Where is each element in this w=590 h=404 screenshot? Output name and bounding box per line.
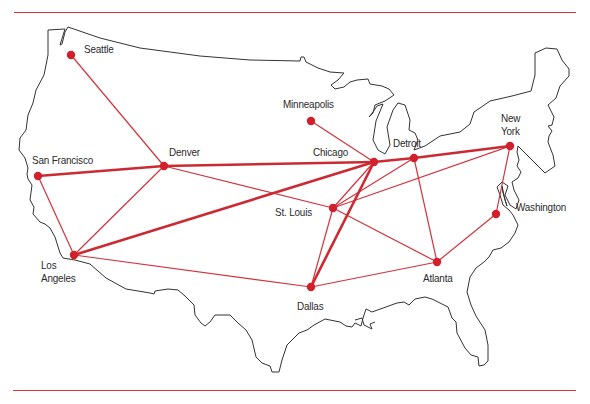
city-label-seattle: Seattle — [84, 43, 114, 56]
route-seattle-denver — [71, 55, 164, 166]
route-denver-chicago — [164, 162, 374, 166]
city-label-los-angeles: LosAngeles — [41, 259, 76, 285]
city-marker-seattle[interactable] — [67, 51, 75, 59]
route-los-angeles-dallas — [74, 255, 311, 287]
city-label-minneapolis: Minneapolis — [283, 98, 334, 111]
city-label-chicago: Chicago — [313, 146, 348, 159]
us-outline — [19, 27, 569, 372]
city-marker-dallas[interactable] — [307, 283, 315, 291]
city-marker-st-louis[interactable] — [329, 204, 337, 212]
city-label-denver: Denver — [169, 146, 200, 159]
route-lines — [38, 55, 510, 287]
route-detroit-new-york — [414, 146, 510, 158]
route-st-louis-new-york — [333, 146, 510, 208]
route-san-francisco-los-angeles — [38, 176, 74, 255]
city-label-atlanta: Atlanta — [423, 272, 453, 285]
city-label-washington: Washington — [516, 201, 566, 214]
route-san-francisco-denver — [38, 166, 164, 176]
florida-panhandle-detail — [355, 318, 375, 329]
city-marker-new-york[interactable] — [506, 142, 514, 150]
city-marker-chicago[interactable] — [370, 158, 378, 166]
route-dallas-atlanta — [311, 262, 437, 287]
city-marker-minneapolis[interactable] — [307, 117, 315, 125]
city-marker-atlanta[interactable] — [433, 258, 441, 266]
city-marker-washington[interactable] — [492, 210, 500, 218]
city-label-st-louis: St. Louis — [275, 206, 312, 219]
city-label-san-francisco: San Francisco — [32, 154, 93, 167]
route-detroit-atlanta — [414, 158, 437, 262]
city-marker-san-francisco[interactable] — [34, 172, 42, 180]
city-marker-detroit[interactable] — [410, 154, 418, 162]
city-label-dallas: Dallas — [297, 300, 323, 313]
city-label-new-york: NewYork — [501, 112, 520, 138]
route-st-louis-atlanta — [333, 208, 437, 262]
route-atlanta-washington — [437, 214, 496, 262]
us-route-map — [0, 0, 590, 404]
city-label-detroit: Detroit — [393, 137, 421, 150]
city-marker-los-angeles[interactable] — [70, 251, 78, 259]
city-marker-denver[interactable] — [160, 162, 168, 170]
